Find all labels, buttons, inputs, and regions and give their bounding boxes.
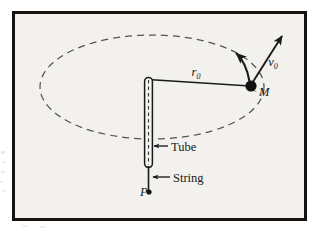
- mass-label: M: [258, 85, 270, 99]
- diagram-canvas: r0 v0 M Tube String P: [0, 0, 318, 231]
- radius-label-subscript: 0: [196, 72, 200, 81]
- string-label: String: [173, 171, 204, 185]
- mass-marker-dot: [245, 80, 256, 91]
- physics-diagram-figure: r0 v0 M Tube String P: [0, 0, 318, 231]
- tube-label: Tube: [171, 140, 197, 154]
- point-p-label: P: [139, 185, 148, 199]
- velocity-label-subscript: 0: [274, 62, 278, 71]
